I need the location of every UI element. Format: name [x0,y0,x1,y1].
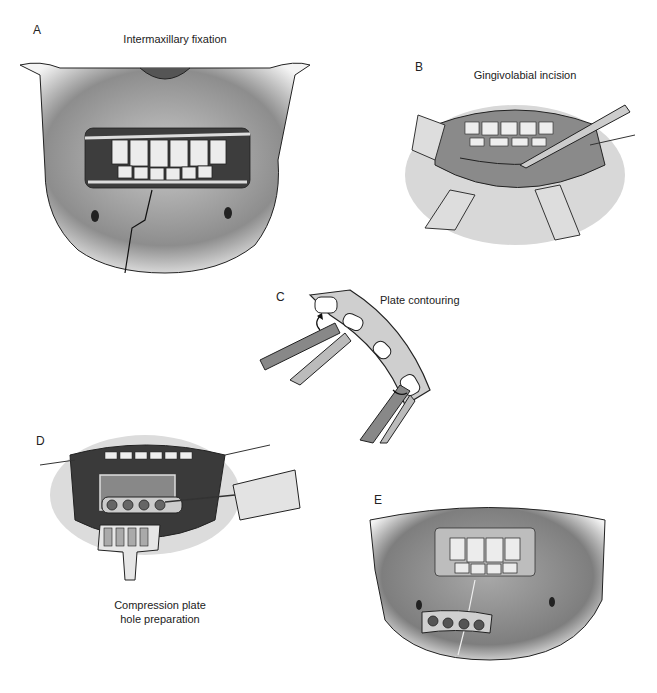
plate-contouring-illustration [255,285,455,445]
panel-d-caption-line1: Compression plate [90,598,230,612]
mandible-plate-fixation-illustration [330,480,657,693]
panel-d-caption-line2: hole preparation [90,612,230,626]
panel-b-letter: B [415,60,423,74]
cropped-figure-header [220,0,460,4]
gingivolabial-incision-illustration [390,80,657,260]
compression-plate-drilling-illustration [40,440,300,580]
panel-a-letter: A [33,23,41,37]
mandible-imf-illustration [0,60,330,290]
panel-a-caption: Intermaxillary fixation [95,32,255,46]
